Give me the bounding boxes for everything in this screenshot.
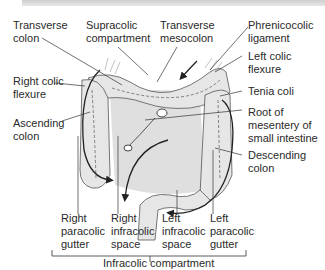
label-supracolic-compartment: Supracolic compartment (86, 19, 150, 45)
label-phrenicocolic-ligament: Phrenicocolic ligament (248, 19, 313, 45)
label-descending-colon: Descending colon (248, 149, 306, 175)
ascending-colon-shape (80, 79, 110, 188)
label-right-paracolic-gutter: Right paracolic gutter (61, 212, 105, 251)
label-infracolic-compartment: Infracolic compartment (103, 257, 214, 270)
label-root-of-mesentery: Root of mesentery of small intestine (248, 106, 318, 145)
label-ascending-colon: Ascending colon (13, 117, 64, 143)
label-left-infracolic-space: Left infracolic space (162, 212, 205, 251)
label-left-colic-flexure: Left colic flexure (248, 50, 291, 76)
label-right-infracolic-space: Right infracolic space (111, 212, 154, 251)
label-tenia-coli: Tenia coli (248, 85, 294, 98)
label-right-colic-flexure: Right colic flexure (13, 75, 64, 101)
label-transverse-mesocolon: Transverse mesocolon (160, 19, 215, 45)
label-left-paracolic-gutter: Left paracolic gutter (210, 212, 254, 251)
label-transverse-colon: Transverse colon (13, 19, 68, 45)
